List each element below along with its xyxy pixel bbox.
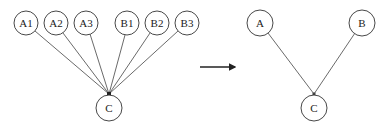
node-label: B1 — [121, 17, 134, 29]
edge-a3-c — [90, 34, 109, 94]
node-a: A — [247, 10, 273, 36]
node-c-right: C — [301, 95, 327, 121]
node-a2: A2 — [44, 11, 68, 35]
edge-b2-c — [109, 33, 150, 94]
edge-a2-c — [63, 33, 109, 94]
node-label: A1 — [19, 17, 32, 29]
node-label: A — [256, 17, 264, 29]
node-label: C — [310, 102, 317, 114]
node-label: B3 — [181, 17, 194, 29]
edge-b-c — [314, 33, 355, 94]
edge-a-c — [268, 33, 314, 94]
node-label: C — [105, 102, 112, 114]
node-a3: A3 — [74, 11, 98, 35]
node-b2: B2 — [145, 11, 169, 35]
node-label: B2 — [151, 17, 164, 29]
right-graph-edges — [268, 33, 355, 96]
edge-b1-c — [109, 35, 125, 94]
node-b1: B1 — [115, 11, 139, 35]
node-c-left: C — [96, 95, 122, 121]
left-graph-edges — [35, 31, 178, 96]
node-b: B — [349, 10, 375, 36]
diagram-canvas: A1 A2 A3 B1 B2 B3 C A B C — [0, 0, 389, 132]
node-label: A2 — [49, 17, 62, 29]
node-a1: A1 — [14, 11, 38, 35]
node-b3: B3 — [175, 11, 199, 35]
node-label: B — [358, 17, 365, 29]
edge-b3-c — [109, 31, 178, 94]
node-label: A3 — [79, 17, 93, 29]
edge-a1-c — [35, 31, 109, 94]
